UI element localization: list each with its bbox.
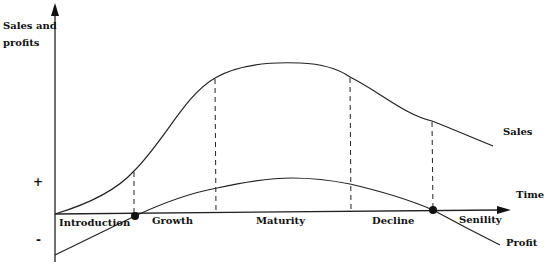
y-axis-label-line2: profits <box>3 37 39 48</box>
y-axis-label-line1: Sales and <box>3 20 57 31</box>
negative-region-sign: - <box>36 233 41 247</box>
stage-label-growth: Growth <box>152 215 193 226</box>
stage-label-senility: Senility <box>459 214 502 225</box>
time-axis-arrowhead-icon <box>497 206 511 214</box>
profit-end-point-icon <box>429 206 437 214</box>
positive-region-sign: + <box>33 175 43 189</box>
breakeven-point-icon <box>131 212 139 220</box>
sales-curve-label: Sales <box>503 126 533 137</box>
y-axis-arrowhead-icon <box>51 3 59 16</box>
stage-divider-growth-maturity <box>215 79 216 213</box>
stage-label-decline: Decline <box>372 215 414 226</box>
stage-label-maturity: Maturity <box>256 215 305 226</box>
sales-curve <box>55 63 493 214</box>
stage-divider-maturity-decline <box>350 78 351 212</box>
stage-divider-decline-senility <box>432 122 433 210</box>
stage-label-introduction: Introduction <box>59 217 130 228</box>
x-axis-label: Time <box>516 189 544 200</box>
profit-curve-label: Profit <box>506 237 537 248</box>
